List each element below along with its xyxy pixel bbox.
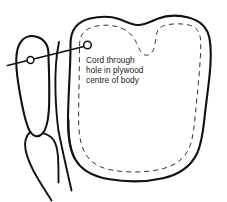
arm-outline-path bbox=[16, 36, 49, 136]
body-hole-icon bbox=[84, 41, 92, 49]
caption-text: Cord through hole in plywood centre of b… bbox=[86, 56, 156, 85]
body-outline-path bbox=[68, 16, 211, 181]
lower-limb-joint-path bbox=[43, 133, 59, 182]
arm-inner-edge-path bbox=[55, 42, 59, 131]
diagram-canvas: Cord through hole in plywood centre of b… bbox=[0, 0, 227, 202]
arm-hole-icon bbox=[27, 57, 34, 64]
lower-limb-outline-path bbox=[25, 132, 51, 201]
caption-line-3: centre of body bbox=[86, 76, 156, 86]
assembly-line-drawing bbox=[0, 0, 227, 202]
